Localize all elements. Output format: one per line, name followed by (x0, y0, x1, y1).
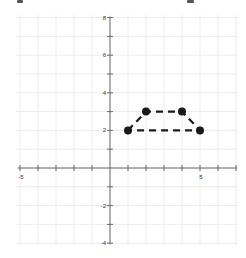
point-marker (178, 108, 186, 116)
y-tick-label: -2 (101, 203, 107, 209)
point-marker (142, 108, 150, 116)
point-marker (124, 126, 132, 134)
point-marker (196, 126, 204, 134)
x-tick-label: -5 (18, 174, 24, 180)
coordinate-plane: -558642-2-4 (0, 0, 246, 258)
y-tick-label: -4 (101, 240, 107, 246)
x-tick-label: 5 (199, 174, 203, 180)
